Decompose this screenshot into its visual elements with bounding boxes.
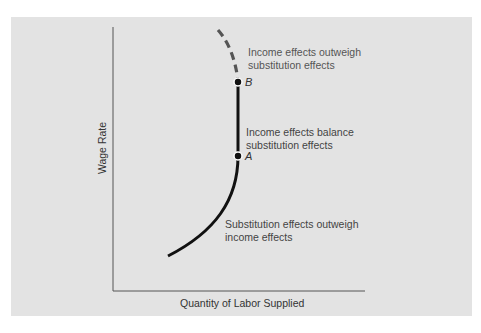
point-a-label: A [245,150,252,162]
annotation-line: income effects [225,231,358,244]
point-b-label: B [245,76,252,88]
y-axis-label: Wage Rate [96,108,108,188]
annotation-line: Income effects outweigh [248,46,361,59]
annotation-line: substitution effects [246,139,354,152]
annotation-income-balance: Income effects balance substitution effe… [246,126,354,151]
x-axis-label: Quantity of Labor Supplied [180,297,304,309]
annotation-line: Income effects balance [246,126,354,139]
annotation-income-outweigh: Income effects outweigh substitution eff… [248,46,361,71]
annotation-line: substitution effects [248,59,361,72]
annotation-line: Substitution effects outweigh [225,218,358,231]
point-b-marker [234,78,242,86]
labor-supply-curve-diagram [0,0,481,333]
dashed-curve-segment [218,30,238,81]
point-a-marker [234,152,242,160]
annotation-substitution-outweigh: Substitution effects outweigh income eff… [225,218,358,243]
